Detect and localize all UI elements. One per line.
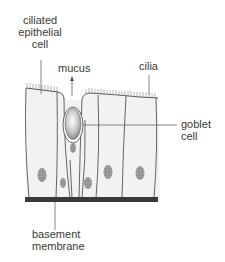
basement-membrane [25,197,158,202]
label-mucus: mucus [58,62,90,74]
label-cilia: cilia [139,60,158,72]
cell-layer [26,88,160,200]
label-basement-membrane: basement membrane [32,228,85,252]
label-ciliated-epithelial-cell: ciliated epithelial cell [4,14,76,50]
label-goblet-cell: goblet cell [181,118,211,142]
